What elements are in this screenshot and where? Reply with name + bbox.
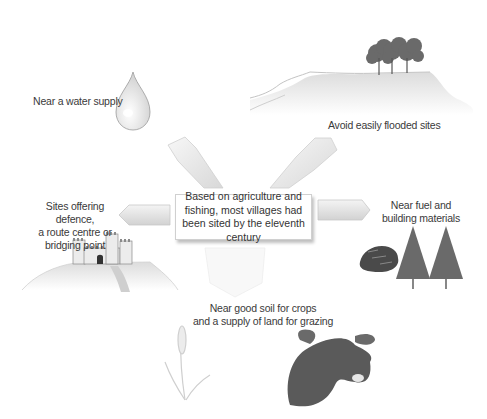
label-fuel-line-1: Near fuel and xyxy=(376,199,466,212)
arrow-to-defence xyxy=(119,205,170,225)
center-statement-text: Based on agriculture and fishing, most v… xyxy=(180,190,307,244)
label-soil-line-2: and a supply of land for grazing xyxy=(183,315,343,328)
label-defence-line-1: Sites offering defence, xyxy=(30,200,120,226)
label-defence: Sites offering defence, a route centre o… xyxy=(30,200,120,252)
label-defence-line-2: a route centre or xyxy=(30,226,120,239)
cow-icon xyxy=(288,327,375,406)
arrow-to-water xyxy=(168,137,223,188)
arrow-to-fuel xyxy=(318,200,370,220)
arrow-to-flood-site xyxy=(270,138,337,188)
label-water-supply: Near a water supply xyxy=(33,95,123,108)
label-fuel-line-2: building materials xyxy=(376,212,466,225)
wheat-icon xyxy=(165,326,210,400)
hill-with-trees-icon xyxy=(250,37,473,115)
label-avoid-flooded: Avoid easily flooded sites xyxy=(328,119,441,132)
label-soil: Near good soil for crops and a supply of… xyxy=(183,302,343,328)
label-soil-line-1: Near good soil for crops xyxy=(183,302,343,315)
label-fuel: Near fuel and building materials xyxy=(376,199,466,225)
coal-and-pine-trees-icon xyxy=(360,226,463,289)
label-defence-line-3: bridging point xyxy=(30,239,120,252)
center-statement-box: Based on agriculture and fishing, most v… xyxy=(175,194,312,240)
arrow-to-soil xyxy=(205,248,265,297)
